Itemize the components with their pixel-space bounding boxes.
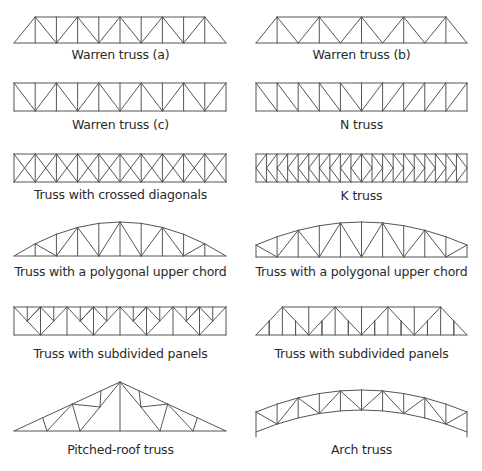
truss-member <box>383 391 404 414</box>
truss-member <box>120 222 141 256</box>
truss-member <box>404 226 425 231</box>
truss-member <box>340 83 361 111</box>
truss-member <box>99 83 120 111</box>
truss-member <box>256 83 277 111</box>
truss-member <box>340 390 361 391</box>
truss-member <box>340 410 361 411</box>
truss-member <box>298 168 309 182</box>
truss-member <box>362 223 383 257</box>
truss-member <box>72 404 100 407</box>
truss-member <box>184 83 205 111</box>
truss-member <box>446 154 457 168</box>
truss-member <box>298 414 319 418</box>
truss-member <box>78 227 99 256</box>
truss-member <box>256 245 277 257</box>
truss-member <box>162 227 183 234</box>
truss-member <box>205 83 226 111</box>
truss-member <box>425 83 446 111</box>
truss-member <box>298 83 319 111</box>
truss-member <box>456 168 467 182</box>
crossed-diagonals-truss-drawing <box>14 154 226 182</box>
subdivided-panels-truss-b-drawing <box>256 307 467 335</box>
truss-member <box>404 414 425 418</box>
truss-member <box>35 234 56 244</box>
truss-member <box>200 307 213 321</box>
truss-member <box>27 307 40 321</box>
subdivided-panels-truss-a-drawing <box>14 307 226 335</box>
polygonal-upper-chord-truss-b-drawing <box>256 222 467 257</box>
truss-member <box>414 168 425 182</box>
truss-member <box>446 424 467 432</box>
subdivided-panels-truss-a-caption: Truss with subdivided panels <box>0 346 241 361</box>
truss-member <box>288 154 299 168</box>
truss-member <box>184 244 205 256</box>
n-truss-caption: N truss <box>241 117 482 132</box>
truss-member <box>362 154 373 168</box>
truss-member <box>162 17 183 43</box>
warren-truss-c-caption: Warren truss (c) <box>0 117 241 132</box>
truss-member <box>404 17 425 43</box>
truss-member <box>141 83 162 111</box>
truss-member <box>298 154 309 168</box>
truss-member <box>186 307 199 321</box>
truss-member <box>277 154 288 168</box>
k-truss-caption: K truss <box>241 188 482 203</box>
truss-member <box>277 17 298 43</box>
truss-member <box>100 382 120 407</box>
truss-member <box>256 404 277 412</box>
truss-member <box>147 307 160 321</box>
truss-member <box>298 394 319 398</box>
truss-member <box>43 418 47 431</box>
truss-member <box>298 230 319 257</box>
truss-member <box>362 391 383 410</box>
truss-member <box>319 223 340 257</box>
truss-member <box>120 382 226 431</box>
truss-member <box>393 154 404 168</box>
truss-member <box>80 307 93 321</box>
polygonal-upper-chord-truss-b-caption: Truss with a polygonal upper chord <box>241 264 482 279</box>
truss-member <box>340 222 361 223</box>
truss-member <box>35 83 56 111</box>
truss-member <box>56 17 77 43</box>
truss-member <box>446 17 467 43</box>
truss-member <box>184 234 205 244</box>
truss-member <box>340 223 361 257</box>
truss-member <box>94 307 107 321</box>
truss-member <box>393 168 404 182</box>
k-truss-drawing <box>256 154 467 182</box>
truss-member <box>446 404 467 412</box>
truss-member <box>56 83 77 111</box>
polygonal-upper-chord-truss-a-caption: Truss with a polygonal upper chord <box>0 264 241 279</box>
truss-member <box>100 391 101 407</box>
polygonal-upper-chord-truss-a-drawing <box>14 222 226 256</box>
truss-member <box>425 230 446 257</box>
truss-member <box>319 411 340 414</box>
truss-member <box>14 83 35 111</box>
truss-member <box>14 244 35 256</box>
truss-member <box>256 424 277 432</box>
truss-member <box>47 404 72 431</box>
truss-member <box>277 168 288 182</box>
truss-member <box>362 390 383 391</box>
truss-member <box>435 168 446 182</box>
truss-member <box>425 168 436 182</box>
truss-member <box>141 223 162 227</box>
truss-member <box>340 168 351 182</box>
truss-member <box>383 17 404 43</box>
truss-member <box>14 17 35 43</box>
truss-member <box>446 237 467 245</box>
truss-member <box>362 83 383 111</box>
truss-member <box>160 404 168 431</box>
truss-member <box>277 398 298 404</box>
truss-member <box>362 410 383 411</box>
truss-member <box>435 154 446 168</box>
truss-member <box>205 17 226 43</box>
truss-member <box>267 154 278 168</box>
truss-member <box>168 404 193 431</box>
truss-member <box>72 404 80 431</box>
truss-member <box>446 83 467 111</box>
subdivided-panels-truss-b-caption: Truss with subdivided panels <box>241 346 482 361</box>
truss-member <box>256 237 277 245</box>
truss-member <box>162 227 183 256</box>
truss-member <box>309 168 320 182</box>
